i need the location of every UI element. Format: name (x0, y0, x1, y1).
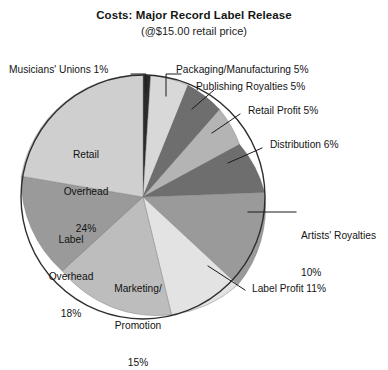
label-label-profit: Label Profit 11% (252, 283, 326, 295)
label-marketing-promotion-line3: 15% (96, 357, 180, 369)
label-artists-royalties-line2: 10% (301, 267, 376, 279)
label-artists-royalties-line1: Artists' Royalties (301, 230, 376, 242)
label-publishing-royalties: Publishing Royalties 5% (196, 81, 305, 93)
label-marketing-promotion-line1: Marketing/ (96, 283, 180, 295)
label-marketing-promotion: Marketing/ Promotion 15% (96, 258, 180, 370)
label-musicians-unions: Musicians' Unions 1% (9, 64, 108, 76)
label-retail-profit: Retail Profit 5% (248, 105, 318, 117)
label-distribution: Distribution 6% (270, 139, 339, 151)
label-label-overhead-line1: Label (29, 234, 113, 246)
label-marketing-promotion-line2: Promotion (96, 320, 180, 332)
label-retail-overhead-line2: Overhead (44, 186, 128, 198)
label-packaging-manufacturing: Packaging/Manufacturing 5% (176, 64, 309, 76)
label-retail-overhead-line1: Retail (44, 149, 128, 161)
